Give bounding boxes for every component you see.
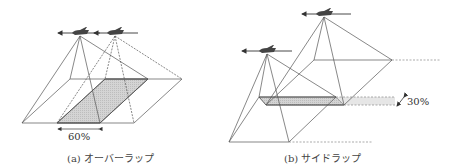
overlap-area-60 — [57, 79, 148, 123]
aircraft-icon — [316, 8, 333, 16]
overlap-percent-label: 60% — [68, 131, 90, 142]
sidelap-percent-label: 30% — [407, 96, 429, 107]
aircraft-icon — [107, 27, 124, 35]
aircraft-icon — [259, 45, 276, 53]
caption-a: (a) オーバーラップ — [67, 150, 154, 165]
caption-b: (b) サイドラップ — [284, 150, 361, 165]
panel-a-overlap — [22, 33, 182, 129]
overlap-area-30 — [259, 97, 344, 105]
dimension-arrow-30 — [397, 97, 404, 106]
panel-b-sidelap — [229, 14, 441, 142]
aircraft-icon — [72, 27, 89, 35]
